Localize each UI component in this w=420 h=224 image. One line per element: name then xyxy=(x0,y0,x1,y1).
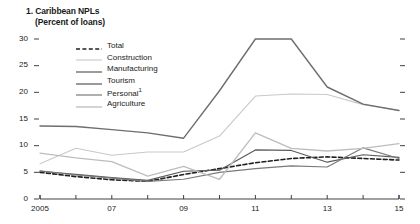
legend-label: Manufacturing xyxy=(107,63,158,75)
x-tick-label: 15 xyxy=(384,204,414,213)
x-tick-label: 09 xyxy=(169,204,199,213)
y-tick-label: 25 xyxy=(6,60,28,69)
legend-item-personal: Personal1 xyxy=(76,86,158,98)
plot-canvas xyxy=(0,0,420,224)
series-line-manufacturing xyxy=(40,150,399,180)
legend-label: Construction xyxy=(107,52,152,64)
series-line-total xyxy=(40,157,399,182)
legend-label: Total xyxy=(107,40,124,52)
x-tick-label: 11 xyxy=(240,204,270,213)
legend-item-total: Total xyxy=(76,40,158,52)
legend-item-construction: Construction xyxy=(76,52,158,64)
legend-label: Agriculture xyxy=(107,98,145,110)
y-tick-label: 15 xyxy=(6,114,28,123)
chart-figure: 1. Caribbean NPLs (Percent of loans) 051… xyxy=(0,0,420,224)
chart-legend: TotalConstructionManufacturingTourismPer… xyxy=(76,40,158,110)
x-tick-label: 13 xyxy=(312,204,342,213)
y-tick-label: 5 xyxy=(6,167,28,176)
legend-item-agriculture: Agriculture xyxy=(76,98,158,110)
y-tick-label: 0 xyxy=(6,194,28,203)
x-tick-label: 2005 xyxy=(25,204,55,213)
legend-footnote-marker: 1 xyxy=(139,87,142,93)
y-tick-label: 30 xyxy=(6,34,28,43)
legend-item-manufacturing: Manufacturing xyxy=(76,63,158,75)
y-tick-label: 10 xyxy=(6,140,28,149)
y-tick-label: 20 xyxy=(6,87,28,96)
x-tick-label: 07 xyxy=(97,204,127,213)
series-line-personal xyxy=(40,148,399,182)
